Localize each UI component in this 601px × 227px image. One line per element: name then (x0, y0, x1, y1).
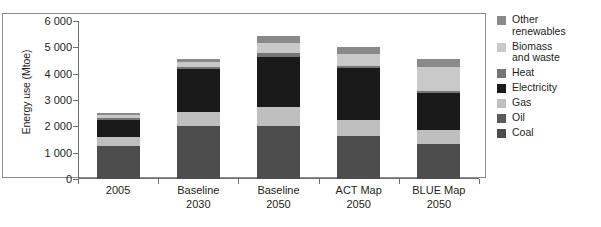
bar-segment (257, 126, 300, 179)
bar-segment (337, 68, 380, 120)
bar-segment (417, 67, 460, 91)
legend-swatch-icon (497, 99, 506, 108)
legend-item-label: Other renewables (512, 14, 566, 37)
legend-item-label: Coal (512, 127, 534, 139)
bar-4[interactable] (417, 59, 460, 179)
legend-item-5[interactable]: Oil (497, 112, 601, 124)
bar-segment (177, 126, 220, 179)
legend-item-2[interactable]: Heat (497, 67, 601, 79)
bar-1[interactable] (177, 59, 220, 179)
bar-segment (97, 120, 140, 138)
bar-0[interactable] (97, 113, 140, 179)
bar-3[interactable] (337, 47, 380, 179)
legend-item-3[interactable]: Electricity (497, 82, 601, 94)
y-tick-mark (73, 100, 79, 101)
y-tick-label: 4 000 (32, 69, 72, 79)
chart-figure: Energy use (Mtoe) 01 0002 0003 0004 0005… (0, 0, 601, 227)
bar-segment (337, 136, 380, 179)
y-tick-label: 6 000 (32, 16, 72, 26)
y-axis-title: Energy use (Mtoe) (20, 27, 32, 157)
bar-segment (177, 112, 220, 126)
x-axis-label-4: BLUE Map 2050 (391, 184, 487, 211)
bar-segment (417, 93, 460, 130)
legend-swatch-icon (497, 84, 506, 93)
legend-swatch-icon (497, 114, 506, 123)
legend-item-label: Electricity (512, 82, 557, 94)
bar-segment (417, 130, 460, 144)
legend-item-1[interactable]: Biomass and waste (497, 41, 601, 64)
y-tick-label: 2 000 (32, 121, 72, 131)
bar-segment (337, 120, 380, 135)
legend-item-label: Heat (512, 67, 534, 79)
y-tick-label: 5 000 (32, 42, 72, 52)
plot-area: 01 0002 0003 0004 0005 0006 000 (78, 21, 479, 179)
bar-segment (417, 144, 460, 179)
legend-item-6[interactable]: Coal (497, 127, 601, 139)
y-tick-mark (73, 47, 79, 48)
bar-segment (257, 36, 300, 44)
y-tick-label: 3 000 (32, 95, 72, 105)
bar-segment (257, 43, 300, 53)
legend-swatch-icon (497, 129, 506, 138)
legend-swatch-icon (497, 43, 506, 52)
bar-segment (257, 107, 300, 125)
y-tick-mark (73, 74, 79, 75)
legend-item-label: Gas (512, 97, 531, 109)
bar-2[interactable] (257, 36, 300, 179)
legend-item-label: Biomass and waste (512, 41, 560, 64)
bar-segment (97, 137, 140, 146)
y-tick-mark (73, 21, 79, 22)
legend-item-label: Oil (512, 112, 525, 124)
bar-segment (417, 59, 460, 67)
bar-segment (337, 54, 380, 66)
legend-item-4[interactable]: Gas (497, 97, 601, 109)
y-tick-label: 0 (32, 174, 72, 184)
y-tick-label: 1 000 (32, 148, 72, 158)
legend-swatch-icon (497, 69, 506, 78)
bar-segment (257, 57, 300, 108)
y-tick-mark (73, 153, 79, 154)
legend-item-0[interactable]: Other renewables (497, 14, 601, 37)
chart-legend: Other renewablesBiomass and wasteHeatEle… (497, 14, 601, 142)
legend-swatch-icon (497, 16, 506, 25)
y-tick-mark (73, 126, 79, 127)
bar-segment (177, 69, 220, 112)
bar-segment (97, 146, 140, 179)
